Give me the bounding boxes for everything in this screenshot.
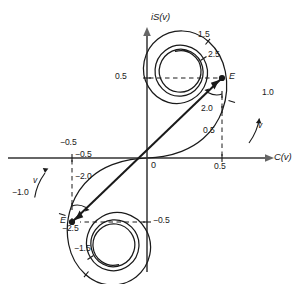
eye-label-upper: E [229,72,235,81]
v-label-neg-1-0: −1.0 [12,188,29,197]
param-label-lower: v [33,176,37,185]
v-label-1-0: 1.0 [262,88,274,97]
y-tick-label-pos-half: 0.5 [115,72,127,81]
v-label-0-5: 0.5 [203,126,215,135]
plot-canvas [0,0,305,284]
y-axis-label: iS(v) [151,12,170,22]
v-label-neg-0-5: −0.5 [75,150,92,159]
eye-curl-lower [72,205,86,207]
x-axis-label: C(v) [274,152,292,162]
x-tick-label-pos-half: 0.5 [214,162,226,171]
y-axis-arrowhead [143,27,151,36]
v-tick-1-0-upper [229,101,236,103]
v-label-neg-2-5: −2.5 [62,224,79,233]
v-label-2-0: 2.0 [201,104,213,113]
v-label-neg-2-0: −2.0 [75,172,92,181]
v-label-1-5: 1.5 [198,30,210,39]
x-axis-arrowhead [265,154,274,162]
v-tick-neg-2-5-lower [88,256,94,260]
axes-group [8,27,274,272]
v-tick-2-5-upper [201,57,207,61]
param-label-upper: v [258,121,262,130]
eye-point-upper [219,75,225,81]
direction-arrowhead-lower [43,168,49,173]
origin-label: 0 [151,161,156,170]
y-tick-label-neg-half: −0.5 [153,216,170,225]
v-label-2-5: 2.5 [208,50,220,59]
x-tick-label-neg-half: −0.5 [60,138,77,147]
cornu-spiral-figure: iS(v) C(v) 0 0.5 −0.5 −0.5 0.5 E E v v 1… [0,0,305,284]
eye-curl-upper [208,93,222,95]
v-label-neg-1-5: −1.5 [74,244,91,253]
